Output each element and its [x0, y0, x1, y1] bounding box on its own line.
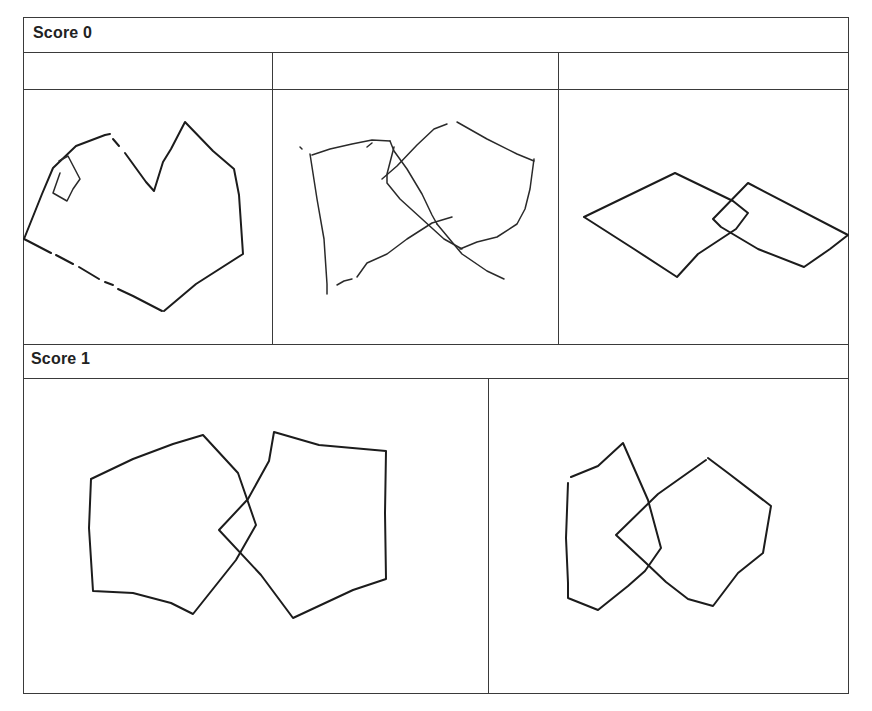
- section-label-score-1: Score 1: [31, 350, 90, 368]
- score0-drawing-3: [558, 89, 849, 344]
- header-cell-3: [558, 52, 849, 89]
- hand-drawn-figure-icon: [23, 89, 272, 344]
- hand-drawn-figure-icon: [272, 89, 558, 344]
- divider-line: [23, 344, 849, 345]
- score1-drawing-2: [488, 378, 849, 694]
- hand-drawn-figure-icon: [558, 89, 849, 344]
- header-cell-1: [23, 52, 272, 89]
- score0-drawing-1: [23, 89, 272, 344]
- score1-drawing-1: [23, 378, 488, 694]
- score0-drawing-2: [272, 89, 558, 344]
- hand-drawn-figure-icon: [488, 378, 849, 694]
- header-cell-2: [272, 52, 558, 89]
- section-label-score-0: Score 0: [33, 24, 92, 42]
- hand-drawn-figure-icon: [23, 378, 488, 694]
